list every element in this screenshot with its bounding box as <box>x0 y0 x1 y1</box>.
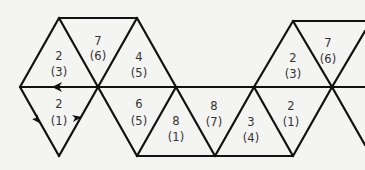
svg-text:(5): (5) <box>131 114 147 128</box>
svg-text:2: 2 <box>287 99 294 113</box>
svg-text:3: 3 <box>247 115 254 129</box>
face-label: 2 (3) <box>51 49 67 79</box>
face-label: 7 (6) <box>320 36 336 66</box>
face-label: 3 (4) <box>243 115 259 145</box>
svg-text:7: 7 <box>94 34 101 48</box>
svg-text:2: 2 <box>55 97 62 111</box>
svg-text:(1): (1) <box>168 130 184 144</box>
svg-text:7: 7 <box>324 36 331 50</box>
svg-text:(1): (1) <box>283 115 299 129</box>
svg-text:(6): (6) <box>90 49 106 63</box>
svg-text:(5): (5) <box>131 66 147 80</box>
face-label: 2 (1) <box>51 97 67 128</box>
svg-text:2: 2 <box>289 51 296 65</box>
svg-text:(1): (1) <box>51 114 67 128</box>
svg-text:6: 6 <box>135 97 142 111</box>
svg-text:8: 8 <box>210 99 217 113</box>
face-label: 2 (3) <box>285 51 301 81</box>
svg-text:(4): (4) <box>243 131 259 145</box>
face-label: 4 (5) <box>131 50 147 80</box>
svg-text:(3): (3) <box>51 65 67 79</box>
face-label: 2 (1) <box>283 99 299 129</box>
svg-text:8: 8 <box>172 114 179 128</box>
face-label: 6 (5) <box>131 97 147 128</box>
edge <box>332 87 365 145</box>
svg-text:2: 2 <box>55 49 62 63</box>
face-label: 8 (1) <box>168 114 184 144</box>
edge <box>332 31 365 87</box>
svg-text:(3): (3) <box>285 67 301 81</box>
svg-text:4: 4 <box>135 50 142 64</box>
svg-text:(7): (7) <box>206 115 222 129</box>
face-label: 7 (6) <box>90 34 106 63</box>
triangle-net-diagram: 2 (3) 7 (6) 4 (5) 2 (1) 6 (5) 8 (1) 8 (7… <box>0 0 365 170</box>
face-label: 8 (7) <box>206 99 222 129</box>
svg-text:(6): (6) <box>320 52 336 66</box>
